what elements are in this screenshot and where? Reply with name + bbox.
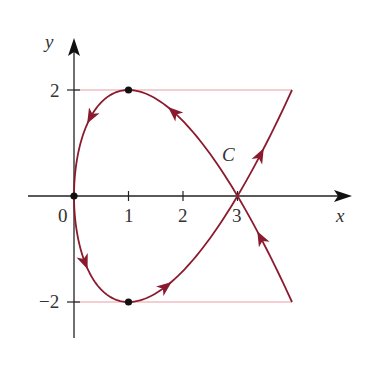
y-tick-label-2: 2	[50, 80, 60, 101]
plot-canvas: y x C 0 1 2 3 2 −2	[0, 0, 377, 368]
y-axis-label: y	[43, 31, 54, 52]
x-tick-label-3: 3	[232, 205, 242, 226]
x-tick-label-2: 2	[178, 205, 188, 226]
y-tick-label-minus2: −2	[39, 291, 59, 312]
x-axis-label: x	[335, 205, 345, 226]
curve-point-dot	[70, 192, 77, 199]
direction-arrow-icon	[77, 253, 94, 271]
direction-arrows	[77, 103, 270, 296]
x-tick-label-0: 0	[58, 205, 68, 226]
curve-label-c: C	[222, 144, 235, 165]
curve-point-dot	[125, 298, 132, 305]
direction-arrow-icon	[252, 228, 270, 247]
curve-point-dot	[125, 86, 132, 93]
direction-arrow-icon	[252, 146, 270, 165]
direction-arrow-icon	[82, 107, 100, 126]
x-tick-label-1: 1	[124, 205, 134, 226]
parametric-curve-figure: y x C 0 1 2 3 2 −2	[0, 0, 377, 368]
